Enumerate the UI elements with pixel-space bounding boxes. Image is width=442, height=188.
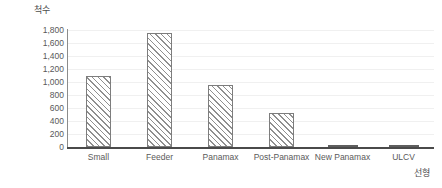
y-axis-tick-label: 1,800 xyxy=(20,26,64,35)
y-axis-tick-label: 1,200 xyxy=(20,65,64,74)
x-axis-title: 선형 xyxy=(414,166,430,179)
y-axis-ticks: 1,8001,6001,4001,2001,0008006004002000 xyxy=(16,0,64,188)
y-axis-tick-label: 1,600 xyxy=(20,39,64,48)
x-axis-tick-label: Post-Panamax xyxy=(251,152,312,162)
x-axis-tick-label: Small xyxy=(68,152,129,162)
y-axis-tick-label: 1,000 xyxy=(20,78,64,87)
y-axis-tick-label: 400 xyxy=(20,117,64,126)
y-axis-tick-label: 600 xyxy=(20,104,64,113)
y-axis-tick-label: 200 xyxy=(20,130,64,139)
x-axis-tick-label: ULCV xyxy=(373,152,434,162)
y-axis-tick-label: 800 xyxy=(20,91,64,100)
y-axis-tick-label: 1,400 xyxy=(20,52,64,61)
x-axis-tick-label: Feeder xyxy=(129,152,190,162)
x-axis-tick-label: Panamax xyxy=(190,152,251,162)
y-axis-tick-label: 0 xyxy=(20,143,64,152)
bar-chart: 척수 1,8001,6001,4001,2001,000800600400200… xyxy=(0,0,442,188)
x-axis-ticks: SmallFeederPanamaxPost-PanamaxNew Panama… xyxy=(68,0,434,188)
x-axis-tick-label: New Panamax xyxy=(312,152,373,162)
